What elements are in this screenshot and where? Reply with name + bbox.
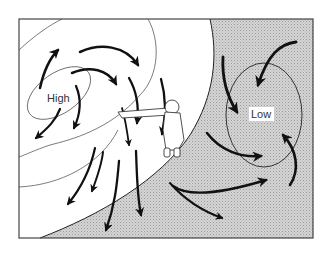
- pressure-wind-diagram: High Low: [0, 0, 329, 256]
- high-label: High: [47, 92, 70, 104]
- low-label: Low: [249, 107, 274, 121]
- low-label-text: Low: [251, 108, 271, 120]
- high-label-text: High: [47, 92, 70, 104]
